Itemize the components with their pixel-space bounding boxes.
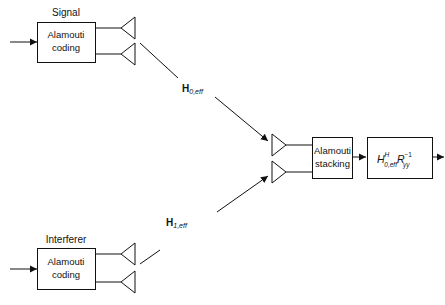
interferer-antenna-1-icon xyxy=(121,243,135,265)
rx-antenna-2-icon xyxy=(272,161,286,183)
diagram-canvas: Signal Alamouti coding Interferer Alamou… xyxy=(0,0,445,305)
h0-arrow xyxy=(215,97,268,141)
signal-transmitter: Signal Alamouti coding xyxy=(10,7,135,65)
interferer-block-line2: coding xyxy=(52,269,80,280)
stacking-line1: Alamouti xyxy=(314,145,351,156)
signal-antenna-2-icon xyxy=(121,43,135,65)
signal-label: Signal xyxy=(52,7,80,18)
interferer-antenna-2-icon xyxy=(121,271,135,293)
h0-label: H0,eff xyxy=(182,83,204,95)
interferer-transmitter: Interferer Alamouti coding xyxy=(10,234,135,293)
receiver: Alamouti stacking HH0,effR−1yy xyxy=(272,134,444,183)
signal-block-line1: Alamouti xyxy=(48,29,85,40)
stacking-line2: stacking xyxy=(315,158,350,169)
h1-arrow xyxy=(217,176,268,212)
signal-block-line2: coding xyxy=(52,42,80,53)
interferer-label: Interferer xyxy=(46,234,87,245)
channel-h1: H1,eff xyxy=(140,176,268,264)
channel-h0: H0,eff xyxy=(140,43,268,141)
rx-antenna-1-icon xyxy=(272,134,286,156)
interferer-block-line1: Alamouti xyxy=(48,256,85,267)
h1-label: H1,eff xyxy=(166,217,188,229)
signal-antenna-1-icon xyxy=(121,17,135,39)
